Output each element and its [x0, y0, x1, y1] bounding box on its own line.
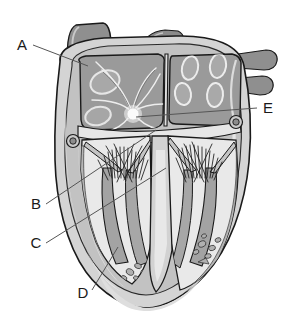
label-a: A [17, 36, 27, 53]
label-d: D [78, 284, 89, 301]
coronary-vessel-cross-section-right [230, 116, 243, 129]
heart-diagram-figure: A B C D E [0, 0, 291, 330]
coronary-vessel-cross-section-left [67, 135, 80, 148]
label-c: C [31, 234, 42, 251]
heart-cross-section-svg: A B C D E [0, 0, 291, 330]
conduction-node [124, 105, 142, 123]
label-e: E [263, 99, 273, 116]
label-b: B [31, 195, 41, 212]
atria-group [79, 53, 241, 130]
